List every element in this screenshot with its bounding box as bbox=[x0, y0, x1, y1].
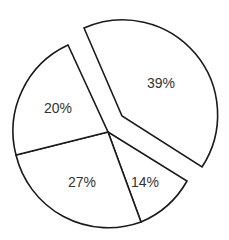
label-20: 20% bbox=[44, 100, 72, 116]
label-39: 39% bbox=[147, 75, 175, 91]
label-27: 27% bbox=[68, 174, 96, 190]
label-14: 14% bbox=[131, 174, 159, 190]
pie-chart: 39% 14% 27% 20% bbox=[0, 0, 229, 240]
